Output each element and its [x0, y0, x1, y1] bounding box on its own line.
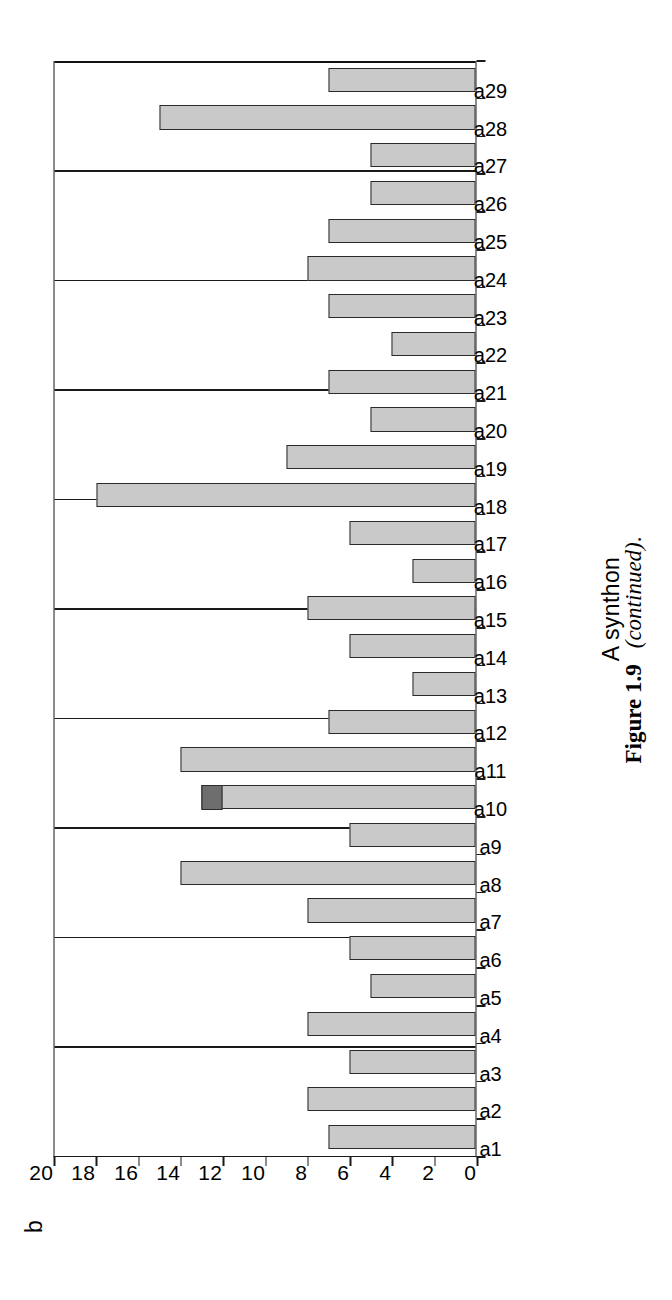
bar[interactable]: [349, 634, 475, 658]
bar[interactable]: [349, 936, 475, 960]
category-label-cell: a4: [489, 1006, 549, 1044]
category-label-cell: a15: [489, 590, 549, 628]
bar-slot: [55, 665, 476, 703]
value-tick: [350, 1157, 352, 1166]
bar-slot: [55, 741, 476, 779]
figure-root: 02468101214161820 a1a2a3a4a5a6a7a8a9a10a…: [0, 0, 672, 1300]
value-tick-label: 14: [156, 1161, 180, 1185]
category-label: a24: [474, 269, 507, 292]
bar[interactable]: [412, 672, 475, 696]
category-label-cell: a5: [489, 968, 549, 1006]
category-label-cell: a11: [489, 741, 549, 779]
bar[interactable]: [370, 408, 475, 432]
bar[interactable]: [328, 219, 475, 243]
bar-slot: [55, 401, 476, 439]
bar-chart: 02468101214161820 a1a2a3a4a5a6a7a8a9a10a…: [48, 55, 573, 1245]
bar[interactable]: [202, 785, 476, 809]
caption-period: .: [621, 537, 646, 543]
category-label-cell: a27: [489, 136, 549, 174]
value-tick-label: 10: [241, 1161, 265, 1185]
category-tick: [477, 60, 486, 62]
value-tick: [96, 1157, 98, 1166]
category-label: a20: [474, 420, 507, 443]
category-label: a17: [474, 533, 507, 556]
category-label: a4: [479, 1025, 501, 1048]
category-label: a26: [474, 193, 507, 216]
category-label: a28: [474, 118, 507, 141]
category-label-cell: a14: [489, 628, 549, 666]
bar-slot: [55, 854, 476, 892]
category-label: a11: [475, 760, 507, 783]
bar[interactable]: [412, 559, 475, 583]
bar[interactable]: [328, 1125, 475, 1149]
category-label: a7: [479, 911, 501, 934]
bar[interactable]: [181, 747, 476, 771]
value-tick: [180, 1157, 182, 1166]
category-label: a1: [479, 1138, 501, 1161]
bar[interactable]: [97, 483, 476, 507]
category-label: a25: [474, 231, 507, 254]
bar[interactable]: [370, 974, 475, 998]
value-tick: [223, 1157, 225, 1166]
bar-slot: [55, 929, 476, 967]
bar-slot: [55, 590, 476, 628]
bar-slot: [55, 212, 476, 250]
category-label-cell: a17: [489, 514, 549, 552]
category-label-cell: a24: [489, 250, 549, 288]
bar[interactable]: [307, 1012, 475, 1036]
category-label-cell: a25: [489, 212, 549, 250]
bar-slot: [55, 476, 476, 514]
bar[interactable]: [181, 861, 476, 885]
category-label: a23: [474, 307, 507, 330]
bar[interactable]: [286, 445, 475, 469]
bar[interactable]: [391, 332, 475, 356]
category-label-cell: a18: [489, 477, 549, 515]
category-label: a18: [474, 496, 507, 519]
bar[interactable]: [307, 1087, 475, 1111]
bar-slot: [55, 627, 476, 665]
bar[interactable]: [328, 370, 475, 394]
bar[interactable]: [160, 105, 476, 129]
bar-slot: [55, 363, 476, 401]
category-label: a5: [479, 987, 501, 1010]
bar[interactable]: [328, 710, 475, 734]
category-label-cell: a12: [489, 703, 549, 741]
panel-letter: b: [21, 1220, 48, 1233]
category-label-cell: a8: [489, 855, 549, 893]
value-tick-label: 2: [422, 1161, 434, 1185]
value-tick-label: 8: [295, 1161, 307, 1185]
category-label: a27: [474, 155, 507, 178]
bar-slot: [55, 99, 476, 137]
bar[interactable]: [349, 1050, 475, 1074]
bar[interactable]: [370, 181, 475, 205]
category-label: a9: [479, 836, 501, 859]
bar[interactable]: [307, 256, 475, 280]
bar[interactable]: [328, 68, 475, 92]
value-axis: 02468101214161820: [54, 1157, 477, 1245]
category-label: a16: [474, 571, 507, 594]
category-label: a2: [479, 1100, 501, 1123]
bar-slot: [55, 325, 476, 363]
value-tick-label: 20: [29, 1161, 53, 1185]
figure-caption: Figure 1.9(continued).: [621, 480, 647, 820]
category-label-cell: a13: [489, 666, 549, 704]
bar[interactable]: [328, 294, 475, 318]
category-label: a10: [474, 798, 507, 821]
gridline: [55, 1156, 476, 1157]
bar-slot: [55, 703, 476, 741]
bar[interactable]: [349, 521, 475, 545]
category-label-cell: a7: [489, 892, 549, 930]
category-label-cell: a3: [489, 1044, 549, 1082]
bar[interactable]: [349, 823, 475, 847]
category-label: a6: [479, 949, 501, 972]
value-tick: [477, 1157, 479, 1166]
category-label: a15: [474, 609, 507, 632]
bar-slot: [55, 438, 476, 476]
bar-highlight-segment: [201, 785, 222, 810]
category-label-cell: a2: [489, 1081, 549, 1119]
value-tick: [307, 1157, 309, 1166]
bar[interactable]: [370, 143, 475, 167]
bar[interactable]: [307, 596, 475, 620]
bar-slot: [55, 892, 476, 930]
bar[interactable]: [307, 898, 475, 922]
